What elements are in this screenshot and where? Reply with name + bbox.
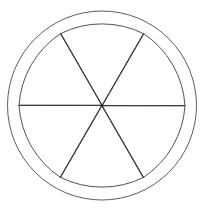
center-dot: [100, 104, 103, 107]
rosette-figure: Six-petal rosette inscribed in a circle: [0, 0, 204, 211]
